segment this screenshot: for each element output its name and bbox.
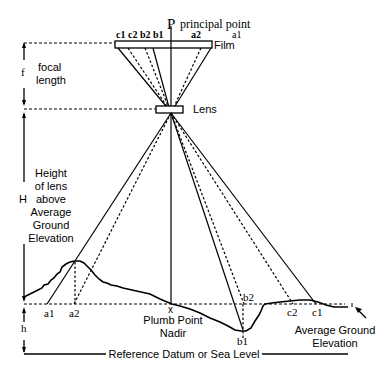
H-symbol: H <box>19 193 27 205</box>
film-label: Film <box>214 39 235 51</box>
focal-length-line2: length <box>36 74 66 86</box>
ground-label-b1: b1 <box>237 335 248 347</box>
film-label-c2: c2 <box>128 29 137 40</box>
film-label-b2: b2 <box>140 29 151 40</box>
height-label-2: of lens <box>35 180 68 192</box>
film-label-b1: b1 <box>153 29 164 40</box>
avg-ground-label-2: Elevation <box>312 337 357 349</box>
avg-ground-label-1: Average Ground <box>295 324 376 336</box>
ground-label-a1: a1 <box>44 307 54 319</box>
f-symbol: f <box>21 66 25 78</box>
ground-label-a2: a2 <box>69 307 79 319</box>
principal-point-label: principal point <box>180 17 251 31</box>
lens-rect <box>156 106 183 113</box>
ground-label-c1: c1 <box>312 306 322 318</box>
ground-label-c2: c2 <box>287 306 297 318</box>
relief-displacement-diagram: c1 c2 b2 b1 a2 a1 P principal point Film… <box>0 0 387 380</box>
nadir-label: Nadir <box>160 327 187 339</box>
height-label-1: Height <box>35 167 67 179</box>
height-label-3: above <box>36 193 66 205</box>
film-rect <box>115 41 212 48</box>
film-label-c1: c1 <box>116 29 125 40</box>
height-label-6: Elevation <box>28 232 73 244</box>
lens-label: Lens <box>193 103 217 115</box>
focal-length-line1: focal <box>38 61 61 73</box>
lens-ground-rays-solid <box>47 113 316 330</box>
datum-label: Reference Datum or Sea Level <box>108 348 259 360</box>
plumb-point-label: Plumb Point <box>143 314 202 326</box>
film-lens-rays-dotted <box>128 48 201 111</box>
principal-point-letter: P <box>167 16 175 32</box>
height-label-4: Average <box>31 206 72 218</box>
h-symbol: h <box>21 322 27 334</box>
height-label-5: Ground <box>33 219 70 231</box>
ground-label-b2: b2 <box>243 291 254 303</box>
